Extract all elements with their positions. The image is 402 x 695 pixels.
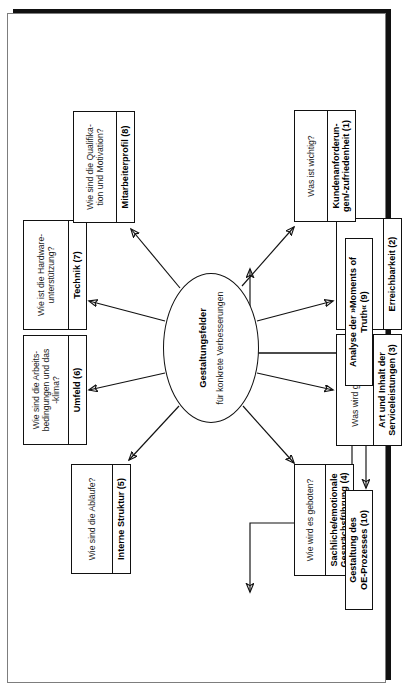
node-box-5[interactable]: Wie sind die Abläufe? Interne Struktur (… bbox=[71, 464, 131, 574]
node-label-8: Mitarbeiterprofil (8) bbox=[117, 112, 134, 222]
node-box-6[interactable]: Wie sind die Arbeits- bedingungen und da… bbox=[23, 335, 87, 445]
diagram-frame: Gestaltungsfelder für konkrete Verbesser… bbox=[7, 13, 386, 683]
node-label-3: Art und Inhalt der Serviceleistungen (3) bbox=[373, 335, 400, 445]
node-question-5: Wie sind die Abläufe? bbox=[72, 465, 112, 573]
process-label-10: Gestaltung des OE-Prozesses (10) bbox=[347, 510, 370, 590]
node-label-6: Umfeld (6) bbox=[69, 336, 86, 444]
node-box-7[interactable]: Wie ist die Hardware- unterstützung? Tec… bbox=[23, 220, 87, 330]
node-label-7: Technik (7) bbox=[69, 221, 86, 329]
node-label-5: Interne Struktur (5) bbox=[113, 465, 130, 573]
hub-ellipse: Gestaltungsfelder für konkrete Verbesser… bbox=[163, 273, 259, 423]
node-question-6: Wie sind die Arbeits- bedingungen und da… bbox=[24, 336, 68, 444]
node-box-1[interactable]: Was ist wichtig? Kundenanforderun- gen/-… bbox=[294, 110, 356, 222]
node-question-8: Wie sind die Qualifika- tion und Motivat… bbox=[74, 112, 116, 222]
hub-title: Gestaltungsfelder bbox=[196, 308, 207, 388]
diagram-canvas: Gestaltungsfelder für konkrete Verbesser… bbox=[11, 18, 383, 678]
node-box-8[interactable]: Wie sind die Qualifika- tion und Motivat… bbox=[73, 111, 135, 223]
node-question-1: Was ist wichtig? bbox=[295, 111, 327, 221]
node-question-7: Wie ist die Hardware- unterstützung? bbox=[24, 221, 68, 329]
node-label-1: Kundenanforderun- gen/-zufriedenheit (1) bbox=[327, 111, 354, 221]
process-box-9[interactable]: Analyse der »Moments of Truth« (9) bbox=[345, 238, 373, 386]
process-box-10[interactable]: Gestaltung des OE-Prozesses (10) bbox=[345, 490, 373, 610]
hub-subtitle: für konkrete Verbesserungen bbox=[214, 292, 225, 405]
process-label-9: Analyse der »Moments of Truth« (9) bbox=[347, 257, 370, 367]
node-label-2: Erreichbarkeit (2) bbox=[384, 219, 401, 329]
node-question-4: Wie wird es geboten? bbox=[295, 465, 325, 575]
